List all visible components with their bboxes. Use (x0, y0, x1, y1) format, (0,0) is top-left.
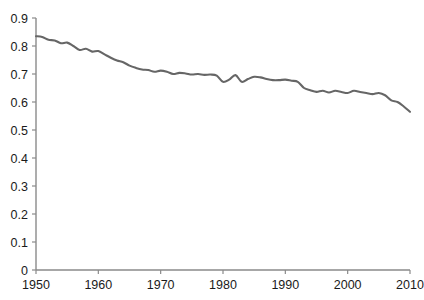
x-tick-label: 1970 (147, 278, 175, 292)
y-axis-group: 00.10.20.30.40.50.60.70.80.9 (11, 12, 36, 278)
x-tick-label: 1980 (209, 278, 237, 292)
x-tick-label: 1990 (271, 278, 299, 292)
y-tick-group: 00.10.20.30.40.50.60.70.80.9 (11, 12, 36, 278)
y-tick-label: 0.4 (11, 152, 28, 166)
y-tick-label: 0.7 (11, 68, 28, 82)
y-tick-label: 0.5 (11, 124, 28, 138)
y-tick-label: 0.1 (11, 236, 28, 250)
y-tick-label: 0.6 (11, 96, 28, 110)
series-line (36, 36, 410, 112)
chart-canvas: 00.10.20.30.40.50.60.70.80.9 19501960197… (0, 0, 424, 300)
x-tick-label: 2010 (396, 278, 424, 292)
y-tick-label: 0.2 (11, 208, 28, 222)
y-tick-label: 0.9 (11, 12, 28, 26)
x-tick-label: 1950 (22, 278, 50, 292)
x-tick-label: 1960 (84, 278, 112, 292)
line-chart: 00.10.20.30.40.50.60.70.80.9 19501960197… (0, 0, 424, 300)
y-tick-label: 0 (21, 264, 28, 278)
data-series-group (36, 36, 410, 112)
x-tick-label: 2000 (334, 278, 362, 292)
x-tick-group: 1950196019701980199020002010 (22, 270, 424, 292)
y-tick-label: 0.8 (11, 40, 28, 54)
y-tick-label: 0.3 (11, 180, 28, 194)
x-axis-group: 1950196019701980199020002010 (22, 270, 424, 292)
